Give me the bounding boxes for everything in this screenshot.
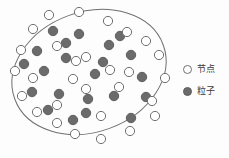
- boundary-node-marker: [10, 66, 19, 75]
- inner-node-marker: [28, 73, 37, 82]
- particle-marker: [61, 38, 70, 47]
- particle-marker: [39, 66, 48, 75]
- particle-marker: [90, 69, 99, 78]
- boundary-node-marker: [122, 27, 131, 36]
- particle-marker: [61, 53, 70, 62]
- inner-node-marker: [68, 74, 77, 83]
- boundary-node-marker: [103, 16, 112, 25]
- legend-row-node: 节点: [183, 60, 229, 78]
- legend-label-particle: 粒子: [197, 86, 215, 96]
- boundary-node-marker: [74, 7, 83, 16]
- particle-marker: [43, 105, 52, 114]
- particle-marker: [81, 108, 90, 117]
- particle-marker: [98, 57, 107, 66]
- particle-marker: [137, 72, 146, 81]
- particle-marker: [109, 91, 118, 100]
- figure-root: 节点 粒子: [0, 0, 229, 158]
- boundary-node-marker: [17, 91, 26, 100]
- boundary-node-marker: [70, 129, 79, 138]
- inner-node-marker: [71, 56, 80, 65]
- boundary-node-marker: [150, 111, 159, 120]
- boundary-node-marker: [16, 45, 25, 54]
- boundary-node-marker: [96, 134, 105, 143]
- particle-marker: [104, 40, 113, 49]
- inner-node-marker: [52, 100, 61, 109]
- inner-node-marker: [114, 82, 123, 91]
- filled-circle-icon: [183, 87, 192, 96]
- open-circle-icon: [183, 65, 192, 74]
- inner-node-marker: [81, 84, 90, 93]
- boundary-node-marker: [147, 96, 156, 105]
- legend: 节点 粒子: [183, 60, 229, 104]
- boundary-node-marker: [52, 118, 61, 127]
- particle-marker: [32, 46, 41, 55]
- boundary-node-marker: [125, 126, 134, 135]
- boundary-node-marker: [160, 73, 169, 82]
- boundary-node-marker: [32, 107, 41, 116]
- boundary-node-marker: [154, 50, 163, 59]
- particle-marker: [126, 50, 135, 59]
- inner-node-marker: [124, 67, 133, 76]
- particle-marker: [48, 26, 57, 35]
- inner-node-marker: [96, 111, 105, 120]
- particle-marker: [74, 29, 83, 38]
- particle-marker: [83, 94, 92, 103]
- particle-marker: [27, 87, 36, 96]
- inner-node-marker: [105, 65, 114, 74]
- particle-marker: [19, 59, 28, 68]
- legend-label-node: 节点: [197, 64, 215, 74]
- particle-marker: [54, 89, 63, 98]
- legend-row-particle: 粒子: [183, 82, 229, 100]
- boundary-node-marker: [28, 24, 37, 33]
- boundary-node-marker: [44, 10, 53, 19]
- boundary-node-marker: [141, 36, 150, 45]
- particle-marker: [126, 113, 135, 122]
- inner-node-marker: [52, 41, 61, 50]
- particle-marker: [68, 115, 77, 124]
- inner-node-marker: [81, 52, 90, 61]
